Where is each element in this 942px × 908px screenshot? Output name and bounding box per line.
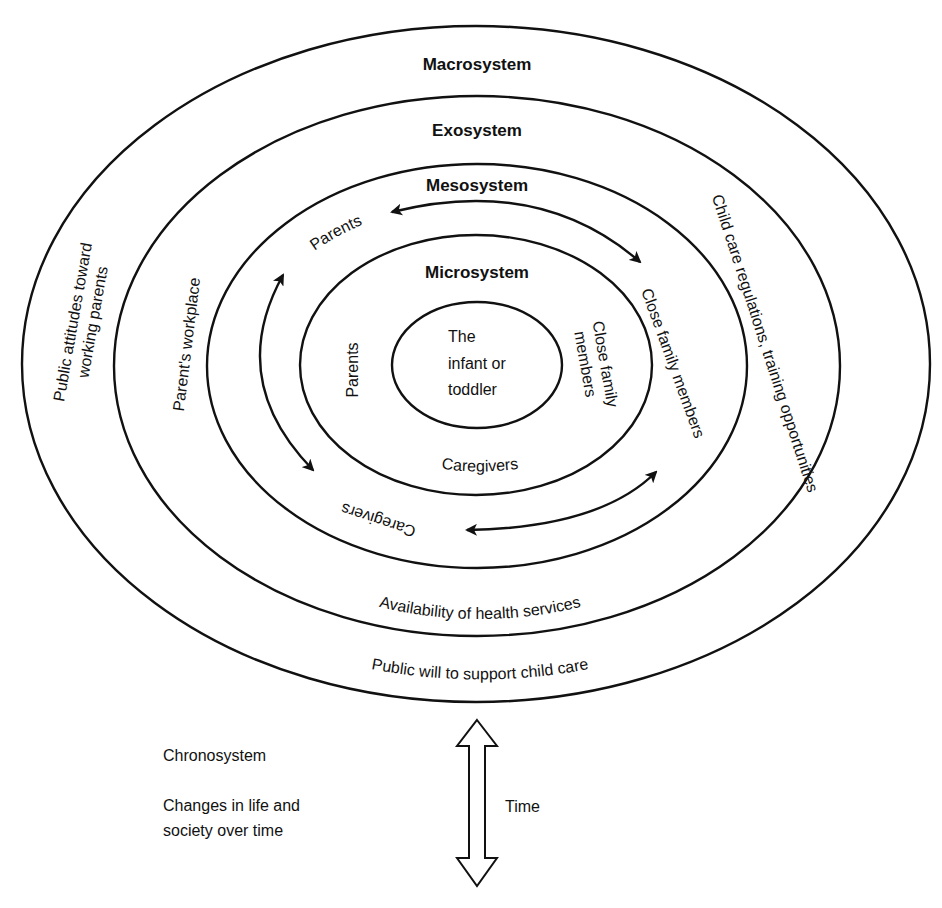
exosystem-title: Exosystem xyxy=(432,121,522,140)
meso-parents-label: Parents xyxy=(307,212,364,254)
exo-child-care-regulations-label: Child care regulations, training opportu… xyxy=(709,192,822,494)
center-label-line1: The xyxy=(448,328,476,345)
micro-parents-label: Parents xyxy=(344,342,361,397)
exo-health-services-label: Availability of health services xyxy=(378,593,582,622)
exo-parents-workplace-label: Parent's workplace xyxy=(170,276,203,412)
meso-close-family-label: Close family members xyxy=(638,286,708,441)
micro-caregivers-label: Caregivers xyxy=(441,455,519,475)
arrow-caregivers-close-family xyxy=(467,472,656,530)
arrow-parents-close-family xyxy=(392,201,640,262)
ecological-systems-diagram: Macrosystem Exosystem Mesosystem Microsy… xyxy=(0,0,942,908)
center-label-line2: infant or xyxy=(448,355,506,372)
chronosystem-description-line1: Changes in life and xyxy=(163,795,300,817)
center-label-line3: toddler xyxy=(448,381,498,398)
chronosystem-title: Chronosystem xyxy=(163,745,266,767)
microsystem-title: Microsystem xyxy=(425,263,529,282)
macrosystem-title: Macrosystem xyxy=(423,55,532,74)
meso-caregivers-label: Caregivers xyxy=(339,500,418,540)
arrow-parents-caregivers xyxy=(260,275,313,470)
mesosystem-title: Mesosystem xyxy=(426,176,528,195)
time-label: Time xyxy=(505,798,540,815)
macro-public-will-label: Public will to support child care xyxy=(370,655,589,682)
time-double-arrow-icon xyxy=(457,720,497,886)
chronosystem-description-line2: society over time xyxy=(163,820,283,842)
